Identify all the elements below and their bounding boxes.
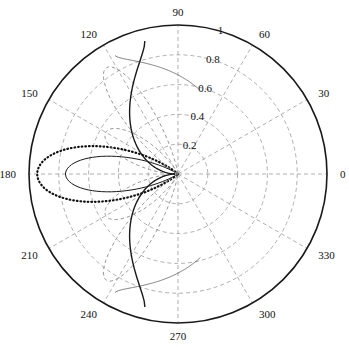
angle-tick-120: 120 — [81, 28, 98, 40]
angle-tick-180: 180 — [0, 168, 17, 180]
radius-tick-0-4: 0.4 — [191, 110, 205, 122]
radius-tick-0-2: 0.2 — [183, 139, 197, 151]
angle-tick-330: 330 — [318, 249, 335, 261]
angle-tick-150: 150 — [21, 87, 38, 99]
polar-plot-canvas: 0306090120150180210240270300330 0.20.40.… — [0, 0, 349, 347]
series-pattern-dashed-inner-upper — [105, 128, 178, 174]
angle-tick-300: 300 — [259, 308, 276, 320]
radius-tick-0-8: 0.8 — [206, 53, 220, 65]
angular-gridline-210 — [49, 174, 178, 249]
angle-tick-0: 0 — [340, 168, 346, 180]
angle-tick-60: 60 — [259, 28, 271, 40]
angular-gridline-300 — [178, 174, 253, 303]
angular-gridline-120 — [104, 45, 179, 174]
angular-gridline-330 — [178, 174, 307, 249]
angle-tick-210: 210 — [21, 249, 38, 261]
angle-tick-270: 270 — [170, 330, 187, 342]
series-pattern-dashed-upper-lobe — [103, 67, 178, 174]
angle-tick-90: 90 — [173, 6, 185, 18]
series-pattern-thin-curve-lower — [115, 257, 200, 292]
radius-tick-0-6: 0.6 — [198, 82, 212, 94]
radius-tick-1: 1 — [218, 24, 224, 36]
angle-tick-30: 30 — [318, 87, 330, 99]
radial-tick-labels: 0.20.40.60.81 — [183, 24, 224, 151]
angle-tick-240: 240 — [81, 308, 98, 320]
series-pattern-dashed-lower-lobe — [103, 174, 178, 281]
polar-plot-figure: 0306090120150180210240270300330 0.20.40.… — [0, 0, 349, 347]
